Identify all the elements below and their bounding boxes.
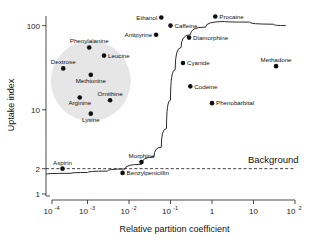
data-label-procaine: Procaine	[219, 13, 244, 20]
data-point-antipyrine[interactable]	[154, 32, 159, 37]
data-point-ornithine[interactable]	[108, 98, 113, 103]
data-label-morphine: Morphine	[129, 152, 155, 159]
data-label-phenobarbital: Phenobarbital	[216, 99, 254, 106]
data-point-codeine[interactable]	[188, 84, 193, 89]
data-label-methionine: Methionine	[76, 77, 107, 84]
x-tick-exponent-2: -2	[132, 205, 137, 211]
x-tick-label-2: 10	[121, 207, 130, 216]
data-label-codeine: Codeine	[194, 83, 218, 90]
data-label-lysine: Lysine	[82, 116, 100, 123]
x-tick-label-6: 10	[287, 207, 296, 216]
x-tick-label-3: 10	[162, 207, 171, 216]
data-label-benzylpenicillin: Benzylpenicillin	[127, 169, 170, 176]
data-point-diamorphine[interactable]	[187, 35, 192, 40]
data-point-methadone[interactable]	[274, 64, 279, 69]
data-label-dextrose: Dextrose	[51, 58, 76, 65]
data-point-dextrose[interactable]	[61, 66, 66, 71]
background-line-label: Background	[248, 154, 299, 165]
y-tick-label-3: 1	[36, 190, 41, 199]
y-axis-title: Uptake index	[6, 78, 16, 131]
data-label-cyanide: Cyanide	[187, 59, 210, 66]
data-label-ethanol: Ethanol	[136, 14, 157, 21]
uptake-index-scatter-figure: 100102110-410-310-210-1110102Relative pa…	[0, 0, 310, 246]
data-label-aspirin: Aspirin	[53, 159, 72, 166]
data-label-caffeine: Caffeine	[175, 22, 198, 29]
x-tick-label-5: 10	[249, 207, 258, 216]
data-point-phenylalanine[interactable]	[87, 45, 92, 50]
data-point-leucine[interactable]	[102, 53, 107, 58]
data-point-aspirin[interactable]	[60, 166, 65, 171]
x-tick-exponent-3: -1	[173, 205, 178, 211]
data-point-cyanide[interactable]	[181, 61, 186, 66]
y-tick-label-0: 100	[27, 22, 41, 31]
data-point-morphine[interactable]	[139, 160, 144, 165]
x-axis-title: Relative partition coefficient	[120, 224, 230, 234]
chart-canvas: 100102110-410-310-210-1110102Relative pa…	[0, 0, 310, 246]
data-label-ornithine: Ornithine	[98, 90, 124, 97]
y-tick-label-2: 2	[36, 165, 41, 174]
data-point-ethanol[interactable]	[159, 15, 164, 20]
data-label-antipyrine: Antipyrine	[125, 31, 153, 38]
y-tick-label-1: 10	[31, 106, 40, 115]
data-point-procaine[interactable]	[213, 14, 218, 19]
data-label-arginine: Arginine	[68, 99, 91, 106]
data-label-methadone: Methadone	[261, 56, 293, 63]
x-tick-label-0: 10	[44, 207, 53, 216]
x-tick-label-4: 1	[210, 207, 215, 216]
data-point-benzylpenicillin[interactable]	[120, 171, 125, 176]
x-tick-exponent-1: -3	[90, 205, 95, 211]
data-point-phenobarbital[interactable]	[210, 101, 215, 106]
data-label-leucine: Leucine	[108, 52, 130, 59]
data-label-diamorphine: Diamorphine	[193, 34, 229, 41]
x-tick-exponent-6: 2	[298, 205, 301, 211]
x-tick-label-1: 10	[79, 207, 88, 216]
data-point-caffeine[interactable]	[168, 23, 173, 28]
data-label-phenylalanine: Phenylalanine	[70, 37, 109, 44]
x-tick-exponent-0: -4	[55, 205, 60, 211]
